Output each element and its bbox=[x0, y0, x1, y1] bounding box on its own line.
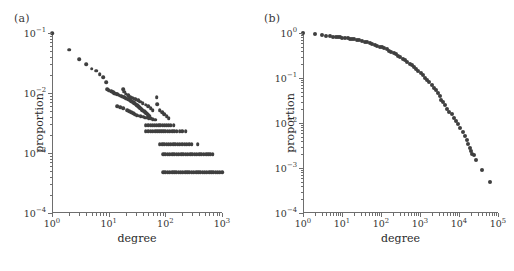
y-tick-major bbox=[48, 153, 52, 154]
y-tick-minor bbox=[50, 184, 53, 185]
y-tick-minor bbox=[50, 39, 53, 40]
data-point bbox=[155, 102, 159, 106]
x-tick-label: 104 bbox=[451, 218, 467, 229]
x-tick-label: 105 bbox=[490, 218, 506, 229]
data-point bbox=[67, 48, 71, 52]
data-point bbox=[104, 81, 108, 85]
x-tick-label: 101 bbox=[100, 218, 116, 229]
x-tick-minor bbox=[336, 213, 337, 216]
y-tick-minor bbox=[50, 195, 53, 196]
data-point bbox=[220, 170, 224, 174]
panel-b-plot-area: degree proportion 10010110210310410510−4… bbox=[303, 33, 498, 213]
x-tick-minor bbox=[414, 213, 415, 216]
y-tick-major bbox=[48, 93, 52, 94]
y-tick-minor bbox=[301, 141, 304, 142]
x-tick-minor bbox=[411, 213, 412, 216]
x-tick-minor bbox=[157, 213, 158, 216]
y-tick-minor bbox=[50, 111, 53, 112]
x-tick-major bbox=[109, 213, 110, 217]
y-tick-minor bbox=[50, 171, 53, 172]
y-tick-minor bbox=[50, 159, 53, 160]
y-tick-minor bbox=[301, 130, 304, 131]
y-tick-minor bbox=[301, 182, 304, 183]
y-tick-label: 10−2 bbox=[275, 118, 297, 129]
y-tick-minor bbox=[301, 172, 304, 173]
x-tick-minor bbox=[455, 213, 456, 216]
x-tick-minor bbox=[315, 213, 316, 216]
x-tick-minor bbox=[338, 213, 339, 216]
y-tick-minor bbox=[301, 175, 304, 176]
y-tick-minor bbox=[301, 47, 304, 48]
data-point bbox=[320, 33, 324, 37]
x-tick-minor bbox=[148, 213, 149, 216]
x-tick-minor bbox=[219, 213, 220, 216]
data-point bbox=[84, 63, 88, 67]
x-tick-minor bbox=[160, 213, 161, 216]
y-tick-minor bbox=[301, 57, 304, 58]
x-tick-minor bbox=[96, 213, 97, 216]
y-tick-minor bbox=[301, 125, 304, 126]
x-tick-major bbox=[342, 213, 343, 217]
panel-a-scatter-points bbox=[52, 33, 222, 213]
panel-b: (b) degree proportion 100101102103104105… bbox=[257, 0, 514, 271]
y-tick-minor bbox=[50, 106, 53, 107]
x-tick-minor bbox=[217, 213, 218, 216]
data-point bbox=[190, 142, 194, 146]
data-point bbox=[155, 95, 159, 99]
data-point bbox=[153, 118, 157, 122]
x-tick-minor bbox=[377, 213, 378, 216]
y-tick-label: 10−1 bbox=[24, 28, 46, 39]
x-tick-minor bbox=[143, 213, 144, 216]
data-point bbox=[196, 142, 200, 146]
data-point bbox=[172, 123, 176, 127]
y-tick-minor bbox=[301, 154, 304, 155]
x-tick-major bbox=[52, 213, 53, 217]
y-tick-minor bbox=[301, 40, 304, 41]
y-tick-minor bbox=[50, 57, 53, 58]
data-point bbox=[184, 129, 188, 133]
x-tick-minor bbox=[326, 213, 327, 216]
panel-b-label: (b) bbox=[264, 12, 280, 25]
x-tick-minor bbox=[494, 213, 495, 216]
x-tick-label: 100 bbox=[44, 218, 60, 229]
x-tick-minor bbox=[79, 213, 80, 216]
y-tick-minor bbox=[50, 96, 53, 97]
y-tick-minor bbox=[50, 135, 53, 136]
y-tick-minor bbox=[301, 92, 304, 93]
y-tick-minor bbox=[301, 88, 304, 89]
x-tick-minor bbox=[408, 213, 409, 216]
panel-a-plot-area: degree proportion 10010110210310−410−310… bbox=[52, 33, 222, 213]
y-tick-minor bbox=[50, 46, 53, 47]
panel-a: (a) degree proportion 10010110210310−410… bbox=[0, 0, 257, 271]
y-tick-minor bbox=[50, 156, 53, 157]
y-tick-label: 10−2 bbox=[24, 88, 46, 99]
y-tick-label: 10−4 bbox=[24, 208, 46, 219]
y-tick-minor bbox=[50, 124, 53, 125]
data-point bbox=[488, 180, 492, 184]
panel-a-y-axis-title: proportion bbox=[33, 93, 46, 153]
y-tick-minor bbox=[301, 37, 304, 38]
x-tick-minor bbox=[103, 213, 104, 216]
y-tick-major bbox=[48, 213, 52, 214]
x-tick-minor bbox=[69, 213, 70, 216]
y-tick-label: 100 bbox=[281, 28, 297, 39]
panel-a-label: (a) bbox=[14, 12, 30, 25]
data-point bbox=[472, 153, 476, 157]
data-point bbox=[90, 67, 94, 71]
y-tick-minor bbox=[301, 85, 304, 86]
y-tick-label: 10−1 bbox=[275, 73, 297, 84]
x-tick-minor bbox=[478, 213, 479, 216]
x-tick-major bbox=[222, 213, 223, 217]
y-tick-minor bbox=[301, 170, 304, 171]
x-tick-minor bbox=[432, 213, 433, 216]
x-tick-minor bbox=[450, 213, 451, 216]
x-tick-minor bbox=[205, 213, 206, 216]
panel-a-x-axis-title: degree bbox=[118, 232, 157, 245]
x-tick-minor bbox=[369, 213, 370, 216]
x-tick-minor bbox=[361, 213, 362, 216]
y-tick-minor bbox=[301, 133, 304, 134]
data-point bbox=[77, 57, 81, 61]
x-tick-label: 100 bbox=[295, 218, 311, 229]
panel-b-scatter-points bbox=[303, 33, 498, 213]
x-tick-label: 101 bbox=[334, 218, 350, 229]
